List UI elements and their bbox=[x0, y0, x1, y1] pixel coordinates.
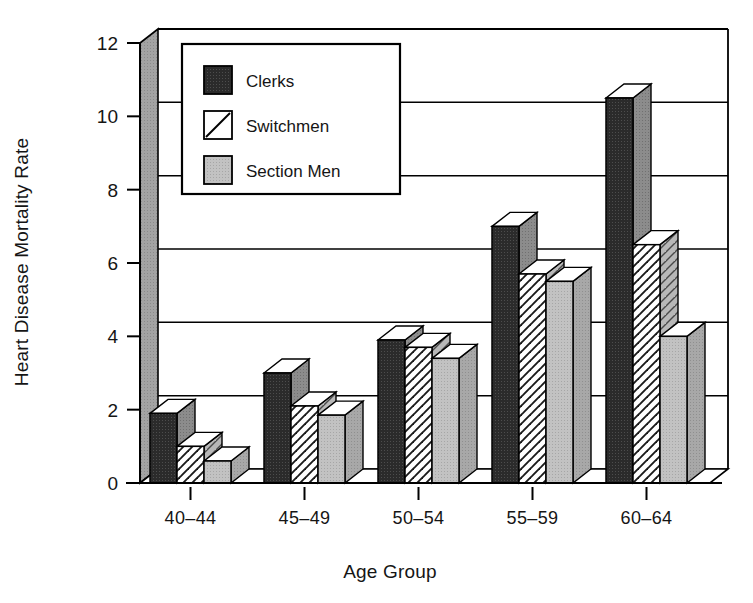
y-tick-label: 4 bbox=[107, 326, 118, 347]
x-tick-label: 50–54 bbox=[392, 508, 444, 528]
bar bbox=[432, 344, 477, 483]
bar bbox=[318, 401, 363, 483]
bar-front-face bbox=[633, 245, 660, 483]
legend-label: Switchmen bbox=[246, 117, 329, 136]
legend: ClerksSwitchmenSection Men bbox=[182, 44, 400, 194]
x-tick-label: 40–44 bbox=[164, 508, 216, 528]
bar-front-face bbox=[264, 373, 291, 483]
bar-front-face bbox=[432, 358, 459, 483]
bar-front-face bbox=[519, 274, 546, 483]
y-tick-label: 6 bbox=[107, 253, 118, 274]
bar-front-face bbox=[177, 446, 204, 483]
bar bbox=[546, 267, 591, 483]
bar-front-face bbox=[318, 415, 345, 483]
x-tick-label: 60–64 bbox=[620, 508, 672, 528]
bar-side-face bbox=[573, 267, 591, 483]
chart-container: 024681012 40–4445–4950–5455–5960–64 Hear… bbox=[0, 0, 753, 603]
bar-front-face bbox=[378, 340, 405, 483]
x-axis-title: Age Group bbox=[343, 561, 437, 582]
y-tick-label: 12 bbox=[97, 33, 118, 54]
legend-swatch bbox=[204, 66, 232, 94]
bar-front-face bbox=[606, 98, 633, 483]
bar-chart: 024681012 40–4445–4950–5455–5960–64 Hear… bbox=[0, 0, 753, 603]
y-tick-label: 10 bbox=[97, 106, 118, 127]
x-tick-label: 45–49 bbox=[278, 508, 330, 528]
bar-front-face bbox=[492, 226, 519, 483]
bar-front-face bbox=[546, 281, 573, 483]
y-axis-title: Heart Disease Mortality Rate bbox=[11, 138, 32, 386]
bar-front-face bbox=[204, 461, 231, 483]
bar-front-face bbox=[405, 347, 432, 483]
bar-side-face bbox=[687, 322, 705, 483]
bar bbox=[660, 322, 705, 483]
legend-label: Clerks bbox=[246, 72, 294, 91]
y-tick-label: 8 bbox=[107, 180, 118, 201]
bar-front-face bbox=[291, 406, 318, 483]
bar-front-face bbox=[660, 336, 687, 483]
y-tick-label: 0 bbox=[107, 473, 118, 494]
bar-side-face bbox=[459, 344, 477, 483]
legend-swatch bbox=[204, 156, 232, 184]
x-tick-label: 55–59 bbox=[506, 508, 558, 528]
bar-front-face bbox=[150, 413, 177, 483]
y-tick-label: 2 bbox=[107, 400, 118, 421]
legend-label: Section Men bbox=[246, 162, 341, 181]
